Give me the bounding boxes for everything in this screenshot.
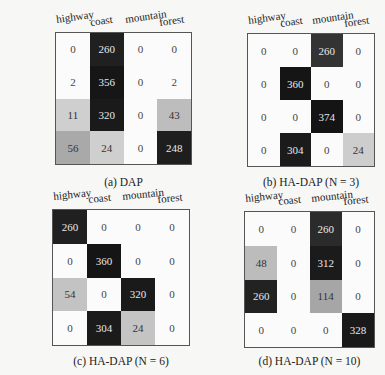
col-label-coast: coast <box>90 13 114 28</box>
matrix-cell: 0 <box>155 278 189 312</box>
matrix-cell: 260 <box>311 34 343 67</box>
matrix-cell: 0 <box>53 244 87 278</box>
matrix-cell: 114 <box>310 280 342 314</box>
matrix-cell: 360 <box>87 244 121 278</box>
matrix-cell: 0 <box>311 133 343 166</box>
matrix-cell: 0 <box>342 212 374 246</box>
matrix-cell: 43 <box>157 99 191 132</box>
matrix-cell: 374 <box>311 100 343 133</box>
matrix-cell: 0 <box>277 313 309 347</box>
matrix-cell: 0 <box>121 210 155 244</box>
matrix-cell: 356 <box>90 66 124 99</box>
matrix-cell: 0 <box>342 246 374 280</box>
matrix-cell: 0 <box>277 280 309 314</box>
matrix-cell: 0 <box>248 67 280 100</box>
matrix-cell: 312 <box>310 246 342 280</box>
matrix-cell: 24 <box>343 133 375 166</box>
matrix-cell: 360 <box>280 67 312 100</box>
panel-caption: (d) HA-DAP (N = 10) <box>244 355 375 367</box>
matrix-grid: 0260002356021132004356240248 <box>55 32 192 165</box>
matrix-cell: 0 <box>124 66 158 99</box>
matrix-cell: 320 <box>90 99 124 132</box>
col-label-forest: forest <box>343 192 369 207</box>
matrix-cell: 54 <box>53 278 87 312</box>
matrix-cell: 0 <box>248 100 280 133</box>
matrix-cell: 0 <box>155 244 189 278</box>
matrix-cell: 0 <box>245 313 277 347</box>
col-label-coast: coast <box>277 193 301 207</box>
matrix-cell: 304 <box>87 311 121 345</box>
matrix-cell: 0 <box>310 313 342 347</box>
matrix-cell: 0 <box>277 212 309 246</box>
matrix-cell: 328 <box>342 313 374 347</box>
col-label-highway: highway <box>53 186 92 202</box>
matrix-cell: 260 <box>53 210 87 244</box>
matrix-cell: 24 <box>90 131 124 164</box>
matrix-cell: 0 <box>121 244 155 278</box>
panel-caption: (a) DAP <box>55 176 192 188</box>
matrix-cell: 0 <box>311 67 343 100</box>
matrix-cell: 0 <box>155 210 189 244</box>
matrix-cell: 0 <box>245 212 277 246</box>
matrix-cell: 0 <box>343 34 375 67</box>
matrix-cell: 0 <box>277 246 309 280</box>
matrix-cell: 260 <box>310 212 342 246</box>
matrix-cell: 0 <box>248 133 280 166</box>
matrix-grid: 002600480312026001140000328 <box>244 211 375 348</box>
col-label-forest: forest <box>156 190 182 205</box>
matrix-cell: 0 <box>342 280 374 314</box>
matrix-cell: 260 <box>245 280 277 314</box>
matrix-cell: 2 <box>157 66 191 99</box>
col-label-forest: forest <box>158 13 184 28</box>
col-label-coast: coast <box>279 14 303 29</box>
matrix-grid: 26000003600054032000304240 <box>52 209 190 346</box>
matrix-cell: 11 <box>56 99 90 132</box>
matrix-cell: 0 <box>343 100 375 133</box>
col-label-coast: coast <box>87 191 111 205</box>
matrix-cell: 0 <box>280 34 312 67</box>
matrix-cell: 2 <box>56 66 90 99</box>
panel-caption: (b) HA-DAP (N = 3) <box>247 176 375 188</box>
matrix-cell: 0 <box>53 311 87 345</box>
panel-caption: (c) HA-DAP (N = 6) <box>52 355 190 367</box>
matrix-cell: 0 <box>248 34 280 67</box>
matrix-cell: 320 <box>121 278 155 312</box>
matrix-cell: 0 <box>155 311 189 345</box>
col-label-forest: forest <box>343 14 369 29</box>
matrix-cell: 0 <box>87 278 121 312</box>
matrix-cell: 48 <box>245 246 277 280</box>
matrix-cell: 0 <box>87 210 121 244</box>
matrix-grid: 0026000360000037400304024 <box>247 33 375 167</box>
matrix-cell: 0 <box>343 67 375 100</box>
matrix-cell: 24 <box>121 311 155 345</box>
matrix-cell: 56 <box>56 131 90 164</box>
matrix-cell: 0 <box>280 100 312 133</box>
matrix-cell: 0 <box>124 99 158 132</box>
matrix-cell: 248 <box>157 131 191 164</box>
matrix-cell: 0 <box>157 33 191 66</box>
matrix-cell: 0 <box>124 131 158 164</box>
matrix-cell: 0 <box>124 33 158 66</box>
matrix-cell: 304 <box>280 133 312 166</box>
matrix-cell: 260 <box>90 33 124 66</box>
matrix-cell: 0 <box>56 33 90 66</box>
